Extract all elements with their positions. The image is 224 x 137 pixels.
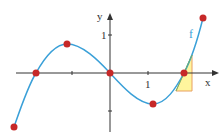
root-right [181, 70, 188, 77]
x-tick-label: 1 [145, 78, 151, 90]
y-tick-label: 1 [101, 29, 107, 41]
x-axis-arrow-icon [212, 70, 219, 76]
root-left [33, 70, 40, 77]
function-label: f [189, 27, 193, 41]
y-axis-arrow-icon [107, 13, 113, 20]
local-max [64, 41, 71, 48]
x-axis-label: x [205, 76, 211, 88]
start-point [11, 124, 18, 131]
y-axis-label: y [97, 10, 103, 22]
end-point [200, 15, 207, 22]
root-origin [107, 70, 114, 77]
local-min [150, 101, 157, 108]
function-graph: y 1 1 x f [0, 0, 224, 137]
